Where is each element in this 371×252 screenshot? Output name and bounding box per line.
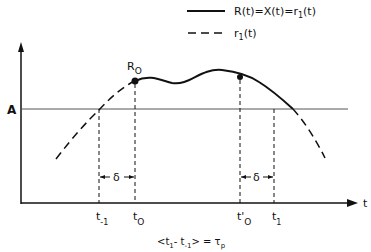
diagram: R(t)=X(t)=r1(t) r1(t) t A RO δ δ t-1 tO … xyxy=(0,0,371,252)
diagram-svg: R(t)=X(t)=r1(t) r1(t) t A RO δ δ t-1 tO … xyxy=(0,0,371,252)
peak-label: RO xyxy=(127,60,142,76)
axis-t-label: t xyxy=(363,197,368,210)
threshold-label: A xyxy=(7,103,17,117)
formula: <t1- t-1> = τp xyxy=(157,236,226,250)
legend-solid-text: R(t)=X(t)=r1(t) xyxy=(234,5,316,20)
delta-arrow-left-icon xyxy=(100,175,105,179)
tick-t0: tO xyxy=(133,210,144,227)
delta-left-label: δ xyxy=(113,171,120,184)
tick-t1: t1 xyxy=(272,210,281,227)
x-axis-arrow-icon xyxy=(347,199,358,207)
peak-point xyxy=(132,78,139,85)
tick-t-minus1: t-1 xyxy=(96,210,108,227)
legend-dashed-text: r1(t) xyxy=(234,27,257,42)
tick-t0-prime: t'O xyxy=(237,210,251,227)
solid-curve xyxy=(135,70,293,109)
dashed-curve-right xyxy=(293,109,325,158)
y-axis-arrow-icon xyxy=(18,42,24,52)
delta-arrow-right-icon xyxy=(129,175,134,179)
dashed-curve-left xyxy=(56,81,134,159)
t0-prime-point xyxy=(237,74,243,80)
delta-right-label: δ xyxy=(253,171,260,184)
